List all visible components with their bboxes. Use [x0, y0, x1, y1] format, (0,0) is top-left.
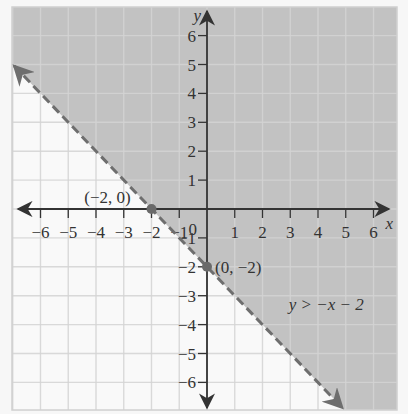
y-tick-label: 4: [188, 84, 197, 103]
y-tick-label: 5: [188, 56, 197, 75]
y-tick-label: 6: [188, 27, 197, 46]
y-tick-label: −3: [178, 287, 196, 306]
x-tick-label: 5: [342, 223, 351, 242]
x-tick-label: −6: [31, 223, 49, 242]
point-label: (0, −2): [215, 258, 261, 277]
point-label: (−2, 0): [84, 188, 130, 207]
y-tick-label: −6: [178, 373, 196, 392]
x-tick-label: 4: [314, 223, 323, 242]
y-tick-label: 3: [188, 113, 197, 132]
y-tick-label: 2: [188, 142, 197, 161]
inequality-label: y > −x − 2: [287, 295, 365, 314]
intercept-point: [147, 204, 157, 214]
x-tick-label: 3: [286, 223, 295, 242]
x-tick-label: −3: [115, 223, 133, 242]
y-axis-label: y: [191, 6, 201, 25]
x-tick-label: 2: [258, 223, 267, 242]
x-axis-label: x: [384, 214, 393, 233]
inequality-graph: −6−5−4−3−2−1123456−6−5−4−3−2−11234560xy(…: [0, 0, 408, 414]
y-tick-label: 1: [188, 171, 197, 190]
x-tick-label: −5: [59, 223, 77, 242]
intercept-point: [202, 262, 212, 272]
x-tick-label: −4: [87, 223, 106, 242]
y-tick-label: −4: [178, 316, 197, 335]
x-tick-label: 1: [231, 223, 240, 242]
y-tick-label: −2: [178, 258, 196, 277]
y-tick-label: −5: [178, 345, 196, 364]
origin-label: 0: [189, 220, 198, 239]
x-tick-label: −2: [142, 223, 160, 242]
x-tick-label: 6: [369, 223, 378, 242]
